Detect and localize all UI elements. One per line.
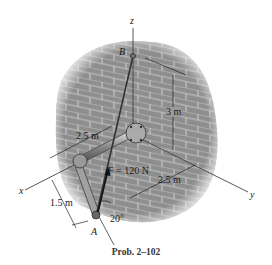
wall-flange bbox=[126, 123, 146, 143]
x-axis-label: x bbox=[19, 186, 23, 196]
diagram-canvas bbox=[0, 0, 272, 265]
pipe-x-dimension: 2.5 m bbox=[76, 131, 99, 141]
y-axis-label: y bbox=[250, 190, 254, 200]
force-label: F = 120 N bbox=[108, 166, 149, 176]
figure-caption: Prob. 2–102 bbox=[0, 247, 272, 257]
pipe-down-dimension: 1.5 m bbox=[50, 198, 73, 208]
point-B-label: B bbox=[119, 47, 125, 57]
height-dimension: 3 m bbox=[166, 107, 181, 117]
anchor-B bbox=[131, 54, 136, 59]
y-offset-dimension: 2.5 m bbox=[158, 175, 181, 185]
statics-figure: z x y B A 3 m 2.5 m F = 120 N 2.5 m 1.5 … bbox=[0, 0, 272, 265]
z-axis-label: z bbox=[130, 16, 134, 26]
point-A-label: A bbox=[91, 227, 97, 237]
angle-label: 20° bbox=[110, 214, 124, 224]
